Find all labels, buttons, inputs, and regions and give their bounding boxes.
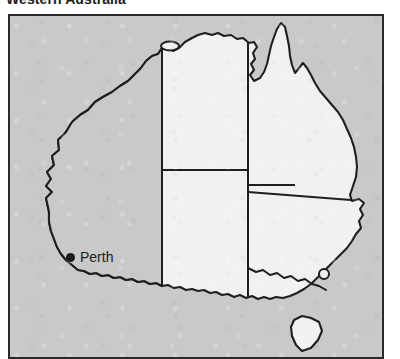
figure-title: Western Australia bbox=[6, 0, 126, 7]
perth-city-marker bbox=[66, 253, 75, 262]
perth-city-label: Perth bbox=[80, 249, 113, 265]
australia-map bbox=[8, 14, 384, 357]
map-frame: Perth bbox=[8, 14, 384, 359]
act-circle bbox=[319, 269, 329, 279]
melville-island bbox=[161, 42, 179, 51]
